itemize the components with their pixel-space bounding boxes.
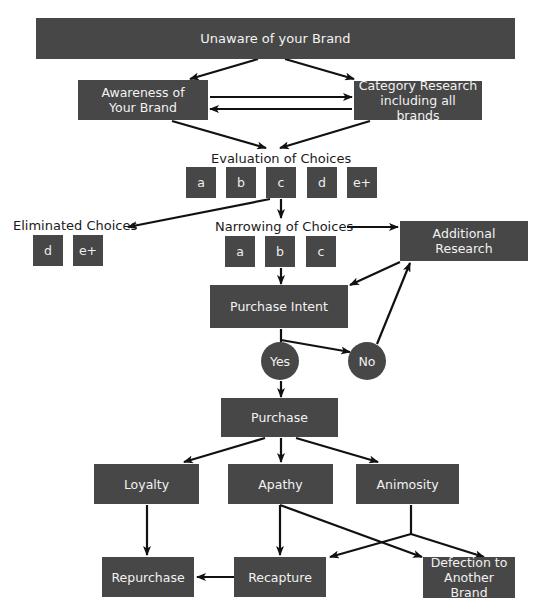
node-purchase-intent: Purchase Intent: [210, 285, 348, 328]
node-animosity-label: Animosity: [376, 477, 438, 492]
node-animosity: Animosity: [356, 464, 459, 504]
node-recapture: Recapture: [234, 557, 326, 597]
evaluation-choice-c: c: [266, 167, 296, 198]
node-repurchase-label: Repurchase: [111, 570, 184, 585]
node-loyalty-label: Loyalty: [124, 477, 169, 492]
arrow-animosity-defection: [411, 534, 484, 557]
narrowing-choice-c: c: [306, 236, 336, 267]
arrow-category-evaluation: [280, 121, 370, 148]
arrow-unaware-awareness: [190, 59, 258, 79]
narrowing-label: Narrowing of Choices: [215, 219, 353, 234]
decision-yes-label: Yes: [270, 354, 290, 369]
decision-yes: Yes: [261, 342, 299, 380]
node-apathy-label: Apathy: [258, 477, 302, 492]
arrow-purchase-loyalty: [184, 438, 265, 462]
node-purchase-intent-label: Purchase Intent: [230, 299, 328, 314]
node-apathy: Apathy: [228, 464, 333, 504]
node-purchase-label: Purchase: [251, 410, 308, 425]
node-awareness: Awareness of Your Brand: [78, 80, 208, 120]
arrow-awareness-evaluation: [172, 121, 266, 148]
node-purchase: Purchase: [221, 398, 338, 437]
arrow-no-additional: [377, 263, 410, 344]
evaluation-choice-a: a: [186, 167, 216, 198]
node-additional-research: Additional Research: [400, 221, 528, 261]
arrow-additional-intent: [350, 262, 400, 285]
decision-no-label: No: [359, 354, 376, 369]
node-category-research: Category Research including all brands: [354, 81, 482, 120]
node-awareness-label: Awareness of Your Brand: [98, 85, 188, 115]
node-defection: Defection to Another Brand: [423, 557, 515, 598]
node-unaware: Unaware of your Brand: [36, 18, 515, 59]
decision-no: No: [348, 342, 386, 380]
node-loyalty: Loyalty: [94, 464, 199, 504]
arrow-unaware-category: [285, 59, 354, 79]
node-additional-research-label: Additional Research: [404, 226, 524, 256]
evaluation-label: Evaluation of Choices: [211, 151, 351, 166]
eliminated-choice-e-plus: e+: [73, 235, 103, 266]
node-repurchase: Repurchase: [102, 557, 194, 597]
narrowing-choice-b: b: [265, 236, 295, 267]
node-category-research-label: Category Research including all brands: [358, 78, 478, 123]
eliminated-choice-d: d: [33, 235, 63, 266]
evaluation-choice-e-plus: e+: [347, 167, 377, 198]
eliminated-label: Eliminated Choices: [13, 218, 137, 233]
node-defection-label: Defection to Another Brand: [427, 555, 511, 600]
arrow-apathy-defection: [280, 505, 422, 557]
evaluation-choice-d: d: [307, 167, 337, 198]
arrow-purchase-animosity: [296, 438, 378, 462]
evaluation-choice-b: b: [226, 167, 256, 198]
node-recapture-label: Recapture: [248, 570, 312, 585]
node-unaware-label: Unaware of your Brand: [200, 31, 350, 46]
narrowing-choice-a: a: [225, 236, 255, 267]
